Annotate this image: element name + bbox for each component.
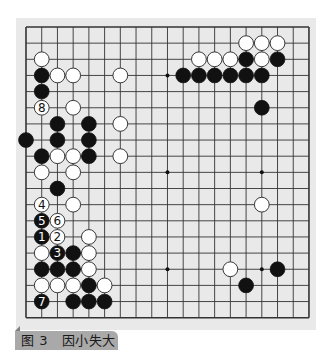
- black-stone: 3: [50, 246, 65, 261]
- black-stone: [81, 278, 96, 293]
- black-stone: [223, 68, 238, 83]
- black-stone: [19, 133, 34, 148]
- black-stone: [81, 117, 96, 132]
- star-point-icon: [165, 267, 169, 271]
- white-stone: [66, 68, 81, 83]
- move-number: 8: [38, 101, 46, 115]
- black-stone: [254, 68, 269, 83]
- white-stone: [34, 165, 49, 180]
- black-stone: [239, 52, 254, 67]
- black-stone: [34, 262, 49, 277]
- white-stone: [239, 36, 254, 51]
- black-stone: [50, 117, 65, 132]
- white-stone: 2: [50, 230, 65, 245]
- black-stone: [254, 100, 269, 115]
- white-stone: [81, 230, 96, 245]
- white-stone: 6: [50, 213, 65, 228]
- white-stone: [192, 52, 207, 67]
- black-stone: [81, 133, 96, 148]
- white-stone: [66, 278, 81, 293]
- black-stone: 5: [34, 213, 49, 228]
- star-point-icon: [165, 73, 169, 77]
- white-stone: [97, 278, 112, 293]
- black-stone: [50, 262, 65, 277]
- black-stone: [192, 68, 207, 83]
- white-stone: [34, 246, 49, 261]
- white-stone: [113, 149, 128, 164]
- black-stone: [34, 149, 49, 164]
- black-stone: 7: [34, 294, 49, 309]
- go-board: 51378462: [0, 0, 330, 350]
- white-stone: [66, 197, 81, 212]
- black-stone: [270, 52, 285, 67]
- white-stone: [254, 36, 269, 51]
- figure-caption: 图 3 因小失大: [21, 332, 116, 349]
- black-stone: [239, 278, 254, 293]
- black-stone: [207, 68, 222, 83]
- black-stone: [34, 68, 49, 83]
- white-stone: [270, 36, 285, 51]
- move-number: 2: [54, 230, 62, 244]
- black-stone: [66, 246, 81, 261]
- move-number: 7: [38, 295, 46, 309]
- move-number: 3: [54, 246, 62, 260]
- move-number: 4: [38, 198, 46, 212]
- black-stone: [270, 262, 285, 277]
- star-point-icon: [260, 170, 264, 174]
- black-stone: [50, 133, 65, 148]
- white-stone: [81, 262, 96, 277]
- white-stone: [113, 68, 128, 83]
- white-stone: [207, 52, 222, 67]
- white-stone: [254, 52, 269, 67]
- white-stone: [66, 100, 81, 115]
- move-number: 5: [38, 214, 46, 228]
- white-stone: [66, 149, 81, 164]
- star-point-icon: [260, 267, 264, 271]
- black-stone: [176, 68, 191, 83]
- white-stone: [34, 278, 49, 293]
- black-stone: [34, 84, 49, 99]
- white-stone: 8: [34, 100, 49, 115]
- black-stone: [66, 262, 81, 277]
- white-stone: [50, 149, 65, 164]
- move-number: 1: [38, 230, 46, 244]
- white-stone: [223, 262, 238, 277]
- black-stone: [81, 294, 96, 309]
- move-number: 6: [54, 214, 62, 228]
- white-stone: [81, 246, 96, 261]
- white-stone: [223, 52, 238, 67]
- white-stone: [113, 117, 128, 132]
- black-stone: [97, 294, 112, 309]
- black-stone: 1: [34, 230, 49, 245]
- black-stone: [239, 68, 254, 83]
- white-stone: [50, 278, 65, 293]
- white-stone: [34, 52, 49, 67]
- white-stone: 4: [34, 197, 49, 212]
- white-stone: [66, 165, 81, 180]
- black-stone: [50, 181, 65, 196]
- black-stone: [81, 149, 96, 164]
- star-point-icon: [165, 170, 169, 174]
- black-stone: [66, 294, 81, 309]
- white-stone: [50, 68, 65, 83]
- white-stone: [254, 197, 269, 212]
